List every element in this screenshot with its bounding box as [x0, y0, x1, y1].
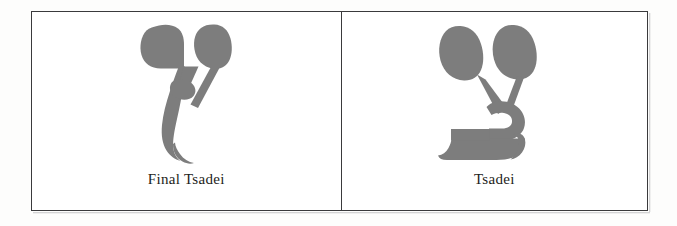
caption-tsadei: Tsadei: [342, 172, 648, 187]
hebrew-letter-tsadi-icon: [429, 16, 559, 166]
letter-cell-tsadei: Tsadei: [342, 12, 648, 210]
scan-edge-shadow-right: [649, 13, 651, 212]
hebrew-letter-final-tsadi-icon: [126, 16, 246, 166]
scan-edge-shadow-bottom: [33, 212, 650, 214]
letter-table: Final Tsadei: [31, 11, 648, 211]
caption-final-tsadei: Final Tsadei: [32, 172, 341, 187]
letter-chart-figure: Final Tsadei: [0, 0, 677, 226]
glyph-area-final-tsadei: [32, 12, 341, 170]
letter-cell-final-tsadei: Final Tsadei: [32, 12, 342, 210]
glyph-area-tsadei: [342, 12, 648, 170]
